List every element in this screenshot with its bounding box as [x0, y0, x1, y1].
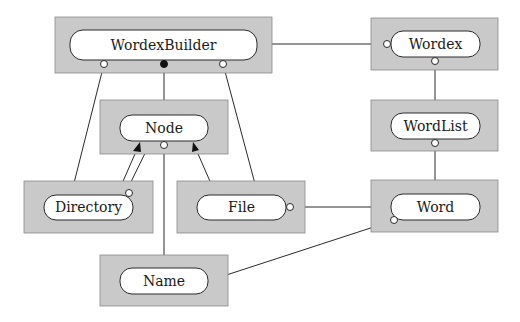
open-circle-icon: [126, 190, 133, 197]
node-label: Directory: [55, 199, 122, 215]
node-label: Word: [417, 199, 455, 215]
node-name[interactable]: Name: [100, 255, 228, 306]
node-word[interactable]: Word: [371, 180, 498, 232]
node-label: Node: [145, 120, 183, 136]
node-label: WordexBuilder: [111, 37, 217, 53]
open-circle-icon: [432, 140, 439, 147]
node-label: Wordex: [409, 36, 463, 52]
diagram-canvas: WordexBuilder Wordex WordList Node Direc…: [0, 0, 520, 322]
open-circle-icon: [391, 217, 398, 224]
filled-circle-icon: [161, 61, 168, 68]
open-circle-icon: [432, 58, 439, 65]
node-label: File: [228, 199, 255, 215]
node-directory[interactable]: Directory: [24, 181, 153, 233]
edge-wordexbuilder-directory: [71, 64, 104, 195]
open-circle-icon: [220, 61, 227, 68]
open-circle-icon: [161, 142, 168, 149]
node-label: WordList: [403, 118, 467, 134]
node-file[interactable]: File: [177, 181, 305, 233]
edges: [71, 44, 435, 281]
open-circle-icon: [287, 204, 294, 211]
open-circle-icon: [101, 61, 108, 68]
open-circle-icon: [384, 41, 391, 48]
node-label: Name: [143, 273, 185, 289]
